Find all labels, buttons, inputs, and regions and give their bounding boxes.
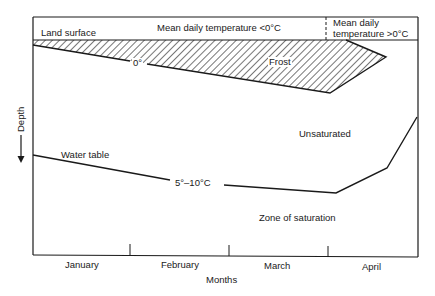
water-table-label: Water table bbox=[61, 150, 109, 160]
months-axis-label: Months bbox=[206, 275, 237, 285]
frost-zone bbox=[33, 40, 386, 93]
depth-axis-label: Depth bbox=[16, 107, 26, 132]
warm-period-label-1: Mean daily bbox=[333, 18, 379, 28]
month-april: April bbox=[362, 262, 381, 272]
warm-period-label-2: temperature >0°C bbox=[333, 29, 408, 39]
unsaturated-label: Unsaturated bbox=[299, 129, 351, 139]
zero-isotherm-label: 0° bbox=[132, 58, 143, 68]
diagram-canvas bbox=[0, 0, 435, 296]
month-january: January bbox=[65, 260, 99, 270]
land-surface-label: Land surface bbox=[41, 28, 96, 38]
depth-arrow-icon bbox=[18, 156, 25, 163]
water-temp-label: 5°–10°C bbox=[175, 178, 211, 188]
saturation-label: Zone of saturation bbox=[259, 213, 336, 223]
x-axis bbox=[33, 255, 418, 257]
month-february: February bbox=[161, 260, 199, 270]
cold-period-label: Mean daily temperature <0°C bbox=[157, 23, 281, 33]
frost-label: Frost bbox=[268, 57, 292, 67]
month-march: March bbox=[264, 261, 290, 271]
